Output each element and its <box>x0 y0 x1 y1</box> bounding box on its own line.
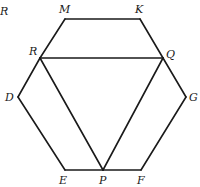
segment-kq <box>140 19 163 58</box>
vertex-label-g: G <box>189 91 198 104</box>
segment-rm <box>40 19 65 58</box>
vertex-label-e: E <box>58 174 67 187</box>
vertex-label-d: D <box>4 91 14 104</box>
segment-qp <box>103 58 163 170</box>
vertex-labels: MKQGFPEDR <box>4 3 198 187</box>
segments <box>18 19 186 170</box>
vertex-label-m: M <box>58 3 71 16</box>
segment-rp <box>40 58 103 170</box>
segment-ed <box>18 97 65 170</box>
corner-label: R <box>0 5 8 18</box>
vertex-label-r: R <box>28 45 37 58</box>
segment-gf <box>141 97 186 170</box>
vertex-label-k: K <box>134 3 144 16</box>
geometry-diagram: MKQGFPEDR R <box>0 0 200 187</box>
vertex-label-p: P <box>98 174 107 187</box>
vertex-label-q: Q <box>166 48 175 61</box>
segment-qg <box>163 58 186 97</box>
vertex-label-f: F <box>136 174 145 187</box>
segment-dr <box>18 58 40 97</box>
